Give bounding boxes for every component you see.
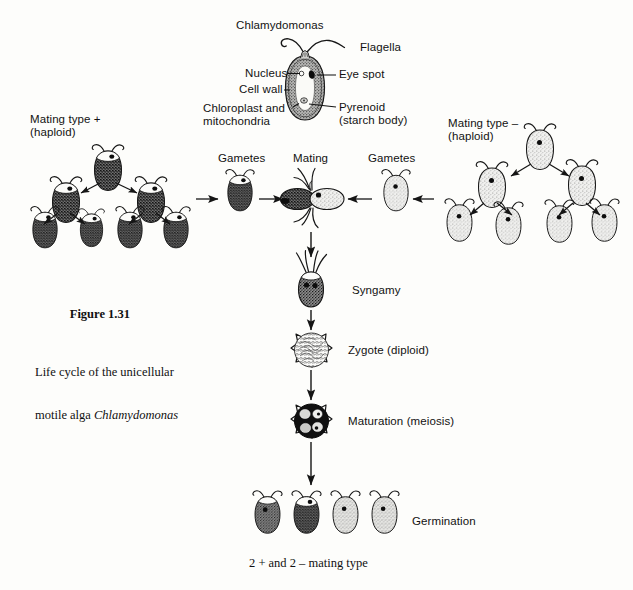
figure-caption-line2-prefix: motile alga: [35, 408, 94, 422]
label-mating-type-plus-line2: (haploid): [30, 126, 76, 140]
label-nucleus: Nucleus: [245, 67, 287, 81]
label-mating-type-result: 2 + and 2 – mating type: [249, 556, 368, 571]
label-zygote: Zygote (diploid): [348, 344, 429, 358]
algal-cell-icon: [92, 145, 124, 191]
zygote-cell-icon: [291, 333, 332, 400]
figure-caption: Figure 1.31 Life cycle of the unicellula…: [35, 263, 178, 452]
algal-cell-icon: [135, 177, 167, 223]
label-chloroplast-line2: mitochondria: [203, 115, 270, 129]
label-cell-wall: Cell wall: [239, 83, 283, 97]
label-mating-type-minus-line2: (haploid): [448, 130, 494, 144]
organism-title: Chlamydomonas: [236, 19, 324, 33]
algal-cell-icon: [116, 207, 144, 248]
maturation-cell-icon: [291, 404, 332, 485]
anatomy-leader-lines: [284, 74, 336, 108]
label-pyrenoid-line1: Pyrenoid: [339, 101, 385, 115]
figure-caption-species: Chlamydomonas: [94, 408, 178, 422]
chlamydomonas-anatomy-cell: [281, 39, 344, 120]
figure-canvas: Chlamydomonas Flagella Eye spot Nucleus …: [0, 0, 633, 590]
algal-cell-icon: [162, 207, 190, 248]
algal-cell-icon: [370, 491, 399, 533]
algal-cell-icon: [331, 491, 360, 533]
figure-caption-line2: motile alga Chlamydomonas: [35, 408, 178, 423]
algal-cell-icon: [545, 200, 574, 242]
algal-cell-icon: [382, 170, 410, 211]
figure-caption-line1: Life cycle of the unicellular: [35, 365, 178, 380]
label-maturation: Maturation (meiosis): [348, 415, 454, 429]
germination-row: [253, 491, 399, 533]
division-arrows: [44, 183, 170, 224]
label-germination: Germination: [412, 515, 476, 529]
label-eye-spot: Eye spot: [339, 68, 385, 82]
algal-cell-icon: [566, 160, 598, 206]
algal-cell-icon: [78, 209, 104, 247]
algal-cell-icon: [445, 199, 474, 241]
algal-cell-icon: [494, 202, 523, 244]
label-gametes-left: Gametes: [218, 152, 265, 166]
gametes-mating-row: [196, 169, 434, 258]
label-mating-type-minus-line1: Mating type –: [448, 117, 518, 131]
label-syngamy: Syngamy: [352, 284, 401, 298]
label-pyrenoid-line2: (starch body): [339, 114, 407, 128]
label-mating-type-plus-line1: Mating type +: [30, 113, 101, 127]
figure-caption-title: Figure 1.31: [70, 307, 130, 321]
algal-cell-icon: [31, 207, 59, 248]
label-chloroplast-line1: Chloroplast and: [203, 102, 285, 116]
label-mating: Mating: [293, 152, 328, 166]
label-gametes-right: Gametes: [368, 152, 415, 166]
algal-cell-icon: [476, 162, 508, 208]
algal-cell-icon: [524, 124, 556, 170]
mating-type-plus-tree: [31, 145, 190, 248]
division-arrows: [470, 164, 600, 215]
algal-cell-icon: [292, 491, 321, 533]
label-flagella: Flagella: [360, 41, 401, 55]
syngamy-cell: [297, 251, 327, 331]
algal-cell-icon: [590, 199, 619, 241]
algal-cell-icon: [50, 177, 82, 223]
algal-cell-icon: [253, 491, 282, 533]
algal-cell-icon: [226, 170, 254, 211]
mating-pair-icon: [281, 169, 345, 228]
